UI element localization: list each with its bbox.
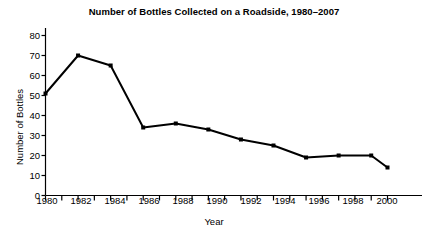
- data-point-marker: [174, 122, 178, 126]
- data-point-marker: [337, 154, 341, 158]
- data-point-marker: [141, 126, 145, 130]
- data-point-marker: [109, 64, 113, 68]
- chart-plot-svg: [0, 0, 428, 237]
- data-point-marker: [76, 54, 80, 58]
- data-point-marker: [304, 156, 308, 160]
- data-point-marker: [44, 92, 48, 96]
- data-point-marker: [239, 138, 243, 142]
- axes: [46, 28, 423, 196]
- data-point-marker: [206, 128, 210, 132]
- x-axis-ticks: [46, 196, 388, 201]
- data-point-markers: [44, 54, 390, 170]
- data-point-marker: [369, 154, 373, 158]
- chart-container: Number of Bottles Collected on a Roadsid…: [0, 0, 428, 237]
- data-series-line: [46, 56, 388, 168]
- data-point-marker: [386, 166, 390, 170]
- data-point-marker: [272, 144, 276, 148]
